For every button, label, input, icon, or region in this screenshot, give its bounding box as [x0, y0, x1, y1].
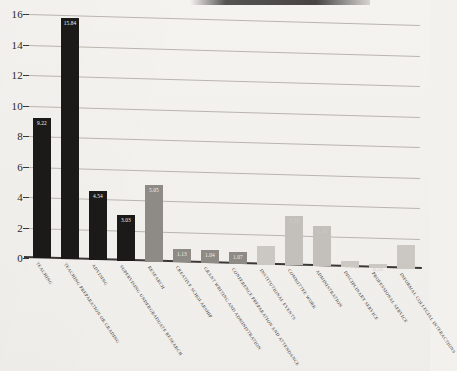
bar-rect[interactable]: 4.54 [89, 191, 106, 260]
x-axis-label-3: ADVISING [91, 263, 109, 287]
bars-group: 9.2215.844.543.035.051.131.041.071.253.2… [28, 14, 420, 258]
bar-10[interactable]: 3.23 [285, 216, 302, 265]
x-axis-category-labels: TEACHINGTEACHING PREPARATION OR GRADINGA… [28, 260, 420, 371]
bar-value-label: 3.23 [289, 218, 299, 224]
x-axis-label-1: TEACHING [35, 261, 54, 286]
bar-value-label: 3.03 [121, 217, 131, 223]
bar-5[interactable]: 5.05 [145, 185, 162, 262]
x-axis-label-14: INFORMAL COLLEGIAL INTERACTIONS [399, 272, 457, 354]
bar-4[interactable]: 3.03 [117, 215, 134, 261]
x-axis-label-4: SUPERVISING UNDERGRADUATE RESEARCH [119, 264, 184, 357]
bar-value-label: 15.84 [64, 20, 77, 26]
x-axis-label-5: RESEARCH [147, 265, 166, 290]
bar-rect[interactable]: 5.05 [145, 185, 162, 262]
bar-value-label: 1.25 [261, 248, 271, 254]
bar-2[interactable]: 15.84 [61, 18, 78, 260]
bar-value-label: 2.14 [317, 228, 327, 234]
y-axis-tick-label: 16 [12, 8, 23, 20]
bar-value-label: 1.13 [177, 251, 187, 257]
x-axis-label-2: TEACHING PREPARATION OR GRADING [63, 262, 121, 344]
bar-rect[interactable]: 15.84 [61, 18, 78, 260]
bar-value-label: 9.22 [37, 120, 47, 126]
x-axis-label-7: GRANT WRITING AND ADMINISTRATION [203, 266, 262, 351]
bar-3[interactable]: 4.54 [89, 191, 106, 260]
y-axis-tick-label: 12 [12, 69, 23, 81]
bar-rect[interactable]: 3.03 [117, 215, 134, 261]
bar-value-label: 5.05 [149, 187, 159, 193]
bar-rect[interactable]: 9.22 [33, 118, 50, 259]
x-axis-label-11: ADMINISTRATION [315, 269, 344, 308]
bar-value-label: 4.54 [93, 193, 103, 199]
bar-1[interactable]: 9.22 [33, 118, 50, 259]
plot-area: 0246810121416 9.2215.844.543.035.051.131… [28, 14, 420, 258]
x-axis-label-10: COMMITTEE WORK [287, 268, 318, 310]
y-axis-tick-label: 10 [12, 100, 23, 112]
bar-rect[interactable]: 3.23 [285, 216, 302, 265]
bar-value-label: 1.04 [205, 252, 215, 258]
y-axis-tick-label: 14 [12, 39, 23, 51]
